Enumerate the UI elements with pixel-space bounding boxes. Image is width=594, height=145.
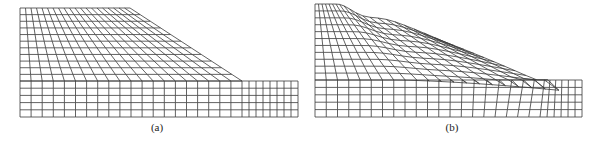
mesh-column	[363, 16, 442, 82]
mesh-column	[108, 8, 198, 81]
mesh-column	[103, 8, 187, 81]
mesh-column	[322, 4, 338, 80]
mesh-canvas	[0, 0, 594, 145]
mesh-column	[350, 9, 418, 81]
mesh-column	[86, 8, 153, 81]
mesh-column	[340, 4, 394, 80]
caption-b: (b)	[446, 121, 459, 133]
mesh-column	[414, 29, 519, 87]
mesh-row	[315, 18, 464, 50]
mesh-column	[547, 80, 550, 117]
mesh-column	[561, 80, 562, 117]
mesh-column	[119, 8, 220, 81]
mesh-column	[484, 80, 487, 117]
caption-a: (a)	[151, 121, 163, 133]
mesh-column	[326, 4, 349, 80]
mesh-column	[37, 8, 54, 81]
mesh-column	[461, 80, 462, 117]
mesh-column	[42, 8, 64, 81]
mesh-column	[70, 8, 120, 81]
mesh-column	[75, 8, 131, 81]
mesh-column	[53, 8, 87, 81]
mesh-column	[31, 8, 42, 81]
mesh-column	[97, 8, 175, 81]
mesh-column	[26, 8, 32, 81]
mesh-column	[473, 80, 475, 117]
mesh-row	[315, 73, 548, 80]
mesh-column	[59, 8, 98, 81]
slope-mesh-figure: (a) (b)	[0, 0, 594, 145]
mesh-column	[319, 4, 327, 80]
mesh-column	[125, 8, 231, 81]
mesh-column	[130, 8, 242, 81]
mesh-column	[495, 80, 499, 117]
mesh-column	[518, 80, 524, 117]
mesh-column	[395, 22, 492, 85]
mesh-column	[344, 6, 405, 80]
mesh-column	[81, 8, 143, 81]
mesh-column	[48, 8, 76, 81]
